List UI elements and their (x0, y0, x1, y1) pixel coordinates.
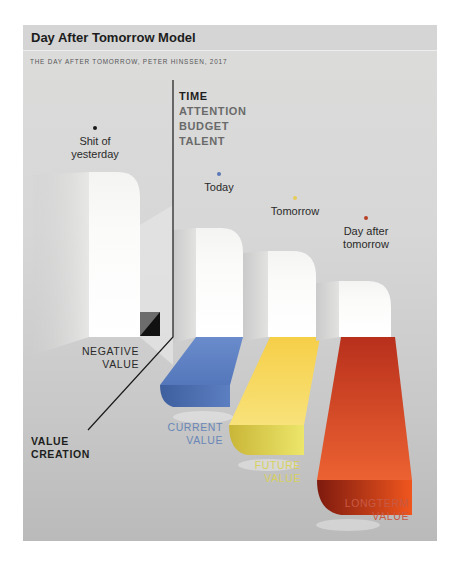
stage-label-day-after-tomorrow: Day after tomorrow (335, 225, 397, 251)
negative-value-label: NEGATIVE VALUE (63, 345, 139, 371)
stage-label-tomorrow: Tomorrow (263, 205, 327, 218)
value-creation-label: VALUE CREATION (31, 435, 111, 461)
stage-label-today: Today (193, 181, 245, 194)
resource-budget: BUDGET (179, 119, 247, 134)
future-value-block (229, 337, 320, 455)
current-value-label: CURRENT VALUE (153, 421, 223, 447)
longterm-value-label: LONGTERM VALUE (323, 497, 409, 523)
future-value-label: FUTURE VALUE (233, 459, 301, 485)
dot-day-after-icon (364, 216, 368, 220)
pillar-tomorrow (243, 251, 316, 341)
resource-time: TIME (179, 89, 247, 104)
pillar-yesterday (33, 172, 173, 365)
dot-tomorrow-icon (293, 196, 297, 200)
resource-talent: TALENT (179, 134, 247, 149)
resource-attention: ATTENTION (179, 104, 247, 119)
dot-yesterday-icon (93, 126, 97, 130)
pillar-today (173, 228, 243, 343)
pillar-day-after-tomorrow (316, 281, 391, 341)
resource-list: TIME ATTENTION BUDGET TALENT (179, 89, 247, 149)
longterm-value-block (317, 337, 412, 515)
dot-today-icon (217, 172, 221, 176)
stage-label-yesterday: Shit of yesterday (67, 135, 123, 161)
diagram-card: Day After Tomorrow Model THE DAY AFTER T… (23, 25, 437, 541)
